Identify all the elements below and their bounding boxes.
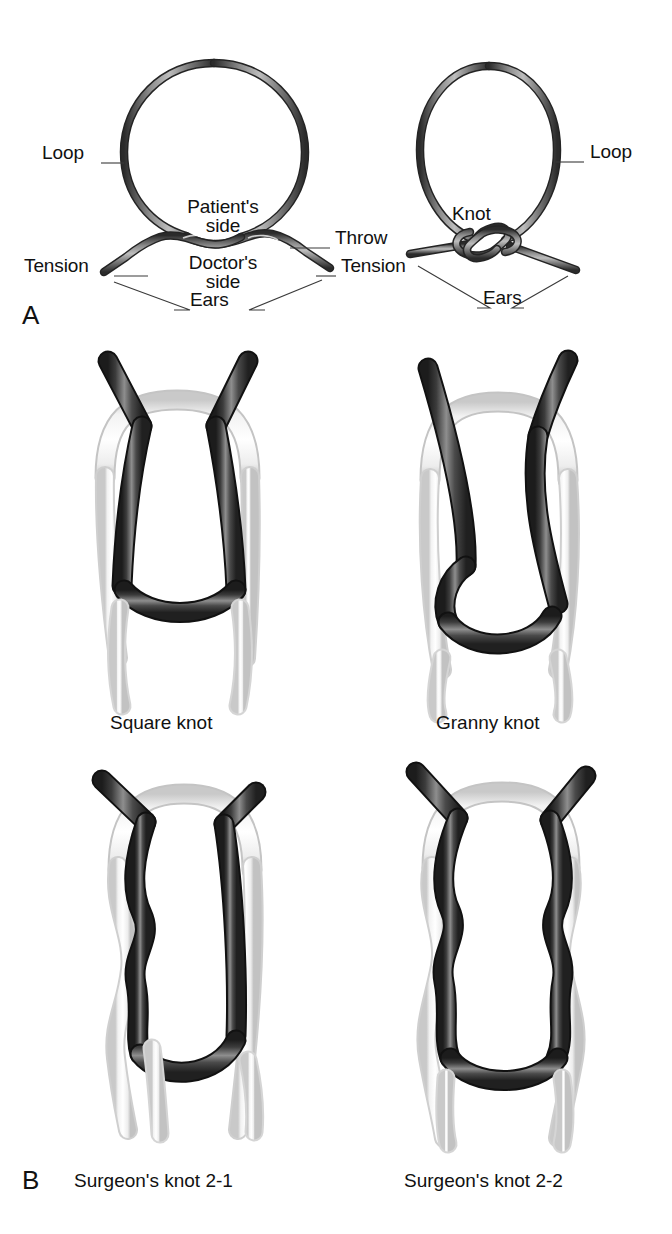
label-tension-right: Tension bbox=[341, 256, 406, 276]
panel-letter-a: A bbox=[22, 300, 39, 331]
panel-b-artwork bbox=[0, 348, 672, 1234]
label-patients-side-line1: Patient's bbox=[187, 196, 258, 217]
caption-surgeons-knot-2-1: Surgeon's knot 2-1 bbox=[74, 1170, 233, 1192]
caption-square-knot: Square knot bbox=[110, 712, 212, 734]
label-tension-left: Tension bbox=[24, 256, 89, 276]
panel-a-artwork bbox=[0, 0, 672, 340]
caption-surgeons-knot-2-2: Surgeon's knot 2-2 bbox=[404, 1170, 563, 1192]
label-doctors-side: Doctor's side bbox=[168, 253, 278, 291]
square-knot-artwork bbox=[105, 361, 251, 706]
right-knot-cord bbox=[410, 227, 576, 270]
granny-knot-artwork bbox=[428, 360, 570, 714]
panel-letter-b: B bbox=[22, 1165, 39, 1196]
label-ears-left: Ears bbox=[190, 290, 229, 310]
label-patients-side: Patient's side bbox=[168, 197, 278, 235]
figure-root: Loop Patient's side Doctor's side Tensio… bbox=[0, 0, 672, 1234]
panel-a: Loop Patient's side Doctor's side Tensio… bbox=[0, 0, 672, 340]
label-loop-right: Loop bbox=[590, 142, 632, 162]
label-loop-left: Loop bbox=[42, 143, 84, 163]
surgeons-knot-2-1-artwork bbox=[102, 780, 256, 1134]
panel-b: Square knot Granny knot Surgeon's knot 2… bbox=[0, 348, 672, 1234]
label-knot: Knot bbox=[452, 204, 491, 224]
surgeons-knot-2-2-artwork bbox=[416, 772, 586, 1144]
label-patients-side-line2: side bbox=[206, 215, 240, 236]
label-ears-right: Ears bbox=[483, 288, 522, 308]
label-throw: Throw bbox=[335, 228, 387, 248]
label-doctors-side-line1: Doctor's bbox=[189, 252, 257, 273]
caption-granny-knot: Granny knot bbox=[436, 712, 540, 734]
